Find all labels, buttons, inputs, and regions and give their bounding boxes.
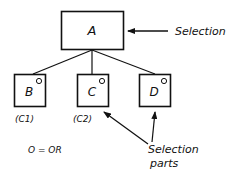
legend-or: O = OR — [28, 145, 62, 155]
selection-tree-diagram: A Selection B C D (C1) (C2) O = OR Selec… — [0, 0, 240, 179]
node-c-label: C — [88, 85, 97, 99]
node-a-label: A — [87, 23, 97, 38]
node-d: D — [140, 75, 171, 107]
parts-label-line1: Selection — [148, 143, 199, 156]
node-b-sublabel: (C1) — [15, 114, 34, 124]
node-c: C — [78, 75, 109, 107]
node-a: A — [62, 12, 124, 50]
node-b: B — [15, 75, 46, 107]
node-c-sublabel: (C2) — [73, 114, 92, 124]
parts-label-line2: parts — [149, 157, 179, 170]
parts-arrow-c — [104, 112, 148, 144]
node-d-label: D — [149, 85, 158, 99]
selection-label: Selection — [175, 25, 226, 38]
node-b-label: B — [25, 85, 33, 99]
parts-arrow-d — [152, 112, 155, 142]
tree-edges — [33, 50, 155, 74]
